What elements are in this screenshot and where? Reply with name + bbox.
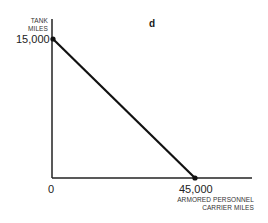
x-axis-label-line1: ARMORED PERSONNEL xyxy=(172,196,254,204)
x-axis-label-line2: CARRIER MILES xyxy=(172,204,254,212)
x-axis-label: ARMORED PERSONNEL CARRIER MILES xyxy=(172,196,254,212)
y-axis-label-line1: TANK xyxy=(26,17,48,25)
y-axis-label: TANK MILES xyxy=(26,17,48,33)
panel-label: d xyxy=(149,18,155,29)
y-axis-label-line2: MILES xyxy=(26,25,48,33)
x-tick-45000: 45,000 xyxy=(179,183,213,195)
y-intercept-point xyxy=(50,36,55,41)
tradeoff-line xyxy=(53,39,195,178)
y-tick-15000: 15,000 xyxy=(16,33,50,45)
x-intercept-point xyxy=(192,175,197,180)
origin-tick: 0 xyxy=(48,183,54,195)
